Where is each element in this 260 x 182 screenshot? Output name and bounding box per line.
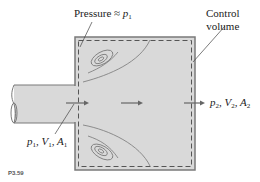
pressure-label: Pressure ≈ p1 (74, 8, 132, 21)
figure-caption: P3.59 (8, 170, 24, 176)
control-volume-label: Control volume (206, 8, 240, 32)
outlet-conditions-label: p2, V2, A2 (210, 97, 250, 110)
inlet-conditions-label: p1, V1, A1 (27, 136, 67, 149)
inlet-pipe (11, 85, 76, 123)
control-volume-diagram: Pressure ≈ p1 Control volume p1, V1, A1 … (0, 0, 260, 182)
